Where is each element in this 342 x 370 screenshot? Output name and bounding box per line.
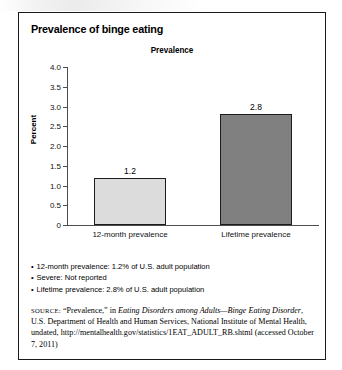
x-category-label: 12-month prevalence [92,230,167,239]
y-tick-mark [63,87,67,88]
y-tick-mark [63,107,67,108]
source-keyword: SOURCE: [31,307,61,314]
bar[interactable]: 1.2 [94,178,166,225]
bar-value-label: 2.8 [250,102,262,112]
bar[interactable]: 2.8 [220,114,292,225]
page-title: Prevalence of binge eating [31,23,163,35]
y-tick-label: 2.0 [50,142,61,151]
scan-artifact [0,0,342,11]
y-tick-mark [63,205,67,206]
list-item-text: Severe: Not reported [37,273,107,282]
x-category-label: Lifetime prevalence [221,230,290,239]
y-tick-label: 4.0 [50,63,61,72]
y-tick-label: 0 [57,221,61,230]
source-publication-title: Eating Disorders among Adults—Binge Eati… [118,306,301,315]
y-tick-label: 1.0 [50,181,61,190]
list-item-text: Lifetime prevalence: 2.8% of U.S. adult … [37,285,205,294]
bar-chart: Prevalence Percent 4.03.53.02.52.01.51.0… [19,45,325,267]
list-item: •12-month prevalence: 1.2% of U.S. adult… [31,261,308,272]
y-tick-label: 1.5 [50,161,61,170]
bullet-marker-icon: • [31,273,34,282]
y-tick-mark [63,67,67,68]
chart-title: Prevalence [27,45,318,55]
bullet-list: •12-month prevalence: 1.2% of U.S. adult… [31,261,317,295]
source-note: SOURCE: “Prevalence,” in Eating Disorder… [31,305,319,350]
y-tick-mark [63,186,67,187]
y-tick-label: 3.0 [50,102,61,111]
y-tick-mark [63,146,67,147]
y-tick-mark [63,166,67,167]
figure-panel: Prevalence of binge eating Prevalence Pe… [18,12,326,360]
y-tick-label: 2.5 [50,122,61,131]
y-axis-label: Percent [29,100,38,160]
list-item: •Severe: Not reported [31,272,308,283]
list-item: •Lifetime prevalence: 2.8% of U.S. adult… [31,284,308,295]
bullet-marker-icon: • [31,262,34,271]
y-tick-mark [63,225,67,226]
x-axis-line [67,225,319,226]
bullet-marker-icon: • [31,285,34,294]
y-tick-label: 0.5 [50,201,61,210]
y-axis-line [67,67,68,225]
y-tick-label: 3.5 [50,82,61,91]
list-item-text: 12-month prevalence: 1.2% of U.S. adult … [37,262,210,271]
bar-value-label: 1.2 [124,166,136,176]
y-tick-mark [63,126,67,127]
plot-area: 4.03.53.02.52.01.51.00.50 1.22.8 12-mont… [67,67,319,225]
source-text-part1: “Prevalence,” in [61,306,118,315]
